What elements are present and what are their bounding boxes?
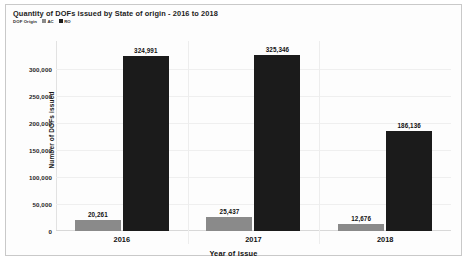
y-axis-tick-label: 100,000	[29, 174, 52, 181]
y-axis-tick-label: 0	[48, 228, 52, 235]
y-axis-tick-label: 250,000	[29, 93, 52, 100]
legend-swatch-ro	[59, 19, 63, 23]
bar-2016-RO[interactable]: 324,991	[123, 56, 169, 231]
bar-2018-AC[interactable]: 12,676	[338, 224, 384, 231]
y-axis-tick-label: 150,000	[29, 147, 52, 154]
category-divider	[188, 41, 189, 244]
legend-entry-ro[interactable]: RO	[59, 19, 71, 24]
bar-group-2018: 12,676186,1362018	[319, 41, 451, 231]
bar-value-label: 325,346	[266, 46, 289, 53]
bar-group-2017: 25,437325,3462017	[188, 41, 320, 231]
x-axis-tick-label: 2017	[245, 235, 261, 244]
bar-2017-AC[interactable]: 25,437	[206, 217, 252, 231]
x-axis-title: Year of issue	[6, 249, 461, 258]
legend-label-ac: AC	[47, 19, 53, 24]
legend-title: DOF Origin	[13, 19, 37, 24]
bar-value-label: 12,676	[351, 215, 371, 222]
chart-legend: DOF Origin AC RO	[13, 19, 71, 24]
bar-value-label: 324,991	[134, 47, 157, 54]
bar-value-label: 20,261	[88, 211, 108, 218]
y-axis-tick-label: 200,000	[29, 120, 52, 127]
bar-value-label: 25,437	[220, 208, 240, 215]
y-axis-tick-label: 300,000	[29, 66, 52, 73]
bar-2016-AC[interactable]: 20,261	[75, 220, 121, 231]
legend-swatch-ac	[42, 19, 46, 23]
plot-area: 050,000100,000150,000200,000250,000300,0…	[56, 41, 451, 231]
bar-value-label: 186,136	[397, 122, 420, 129]
x-axis-tick-label: 2016	[114, 235, 130, 244]
chart-frame: Quantity of DOFs issued by State of orig…	[5, 4, 462, 256]
bar-2018-RO[interactable]: 186,136	[386, 131, 432, 231]
bar-group-2016: 20,261324,9912016	[56, 41, 188, 231]
y-axis-title: Number of DOFs issued	[48, 92, 55, 169]
category-divider	[319, 41, 320, 244]
y-axis-tick-label: 50,000	[32, 201, 52, 208]
chart-title: Quantity of DOFs issued by State of orig…	[13, 9, 218, 18]
legend-entry-ac[interactable]: AC	[42, 19, 54, 24]
legend-label-ro: RO	[64, 19, 70, 24]
bar-2017-RO[interactable]: 325,346	[254, 55, 300, 231]
x-axis-tick-label: 2018	[377, 235, 393, 244]
